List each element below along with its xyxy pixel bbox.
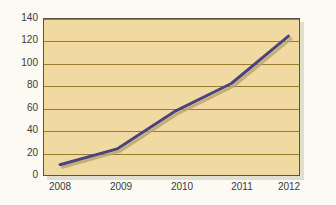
x-tick-label-2009: 2009 xyxy=(99,182,143,192)
y-tick-label-20: 20 xyxy=(0,148,38,158)
x-tick-label-2010: 2010 xyxy=(160,182,204,192)
y-tick-label-60: 60 xyxy=(0,103,38,113)
y-tick-label-40: 40 xyxy=(0,125,38,135)
series-line-shadow xyxy=(63,39,292,168)
y-tick-label-80: 80 xyxy=(0,80,38,90)
line-chart-figure: 140 120 100 80 60 40 20 0 2008 2009 2010… xyxy=(0,0,336,205)
data-series-layer xyxy=(43,18,300,176)
series-line xyxy=(60,36,289,165)
x-tick-label-2012: 2012 xyxy=(267,182,311,192)
y-tick-label-100: 100 xyxy=(0,58,38,68)
x-tick-label-2011: 2011 xyxy=(220,182,264,192)
y-tick-label-140: 140 xyxy=(0,13,38,23)
x-tick-label-2008: 2008 xyxy=(38,182,82,192)
y-tick-label-120: 120 xyxy=(0,35,38,45)
y-tick-label-0: 0 xyxy=(0,170,38,180)
